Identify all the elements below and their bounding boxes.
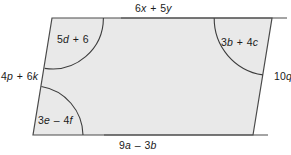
top-side-label: 6x + 5y	[135, 2, 172, 14]
bottom-side-label: 9a – 3b	[119, 139, 156, 151]
angle-top-right-label: 3b + 4c	[221, 36, 258, 48]
left-side-label: 4p + 6k	[1, 70, 38, 82]
angle-bottom-left-label: 3e – 4f	[38, 114, 72, 126]
right-side-label: 10q	[274, 70, 291, 82]
angle-top-left-label: 5d + 6	[57, 33, 89, 45]
parallelogram-shape	[0, 0, 291, 155]
parallelogram-figure-container: 6x + 5y 9a – 3b 4p + 6k 10q 5d + 6 3b + …	[0, 0, 291, 155]
